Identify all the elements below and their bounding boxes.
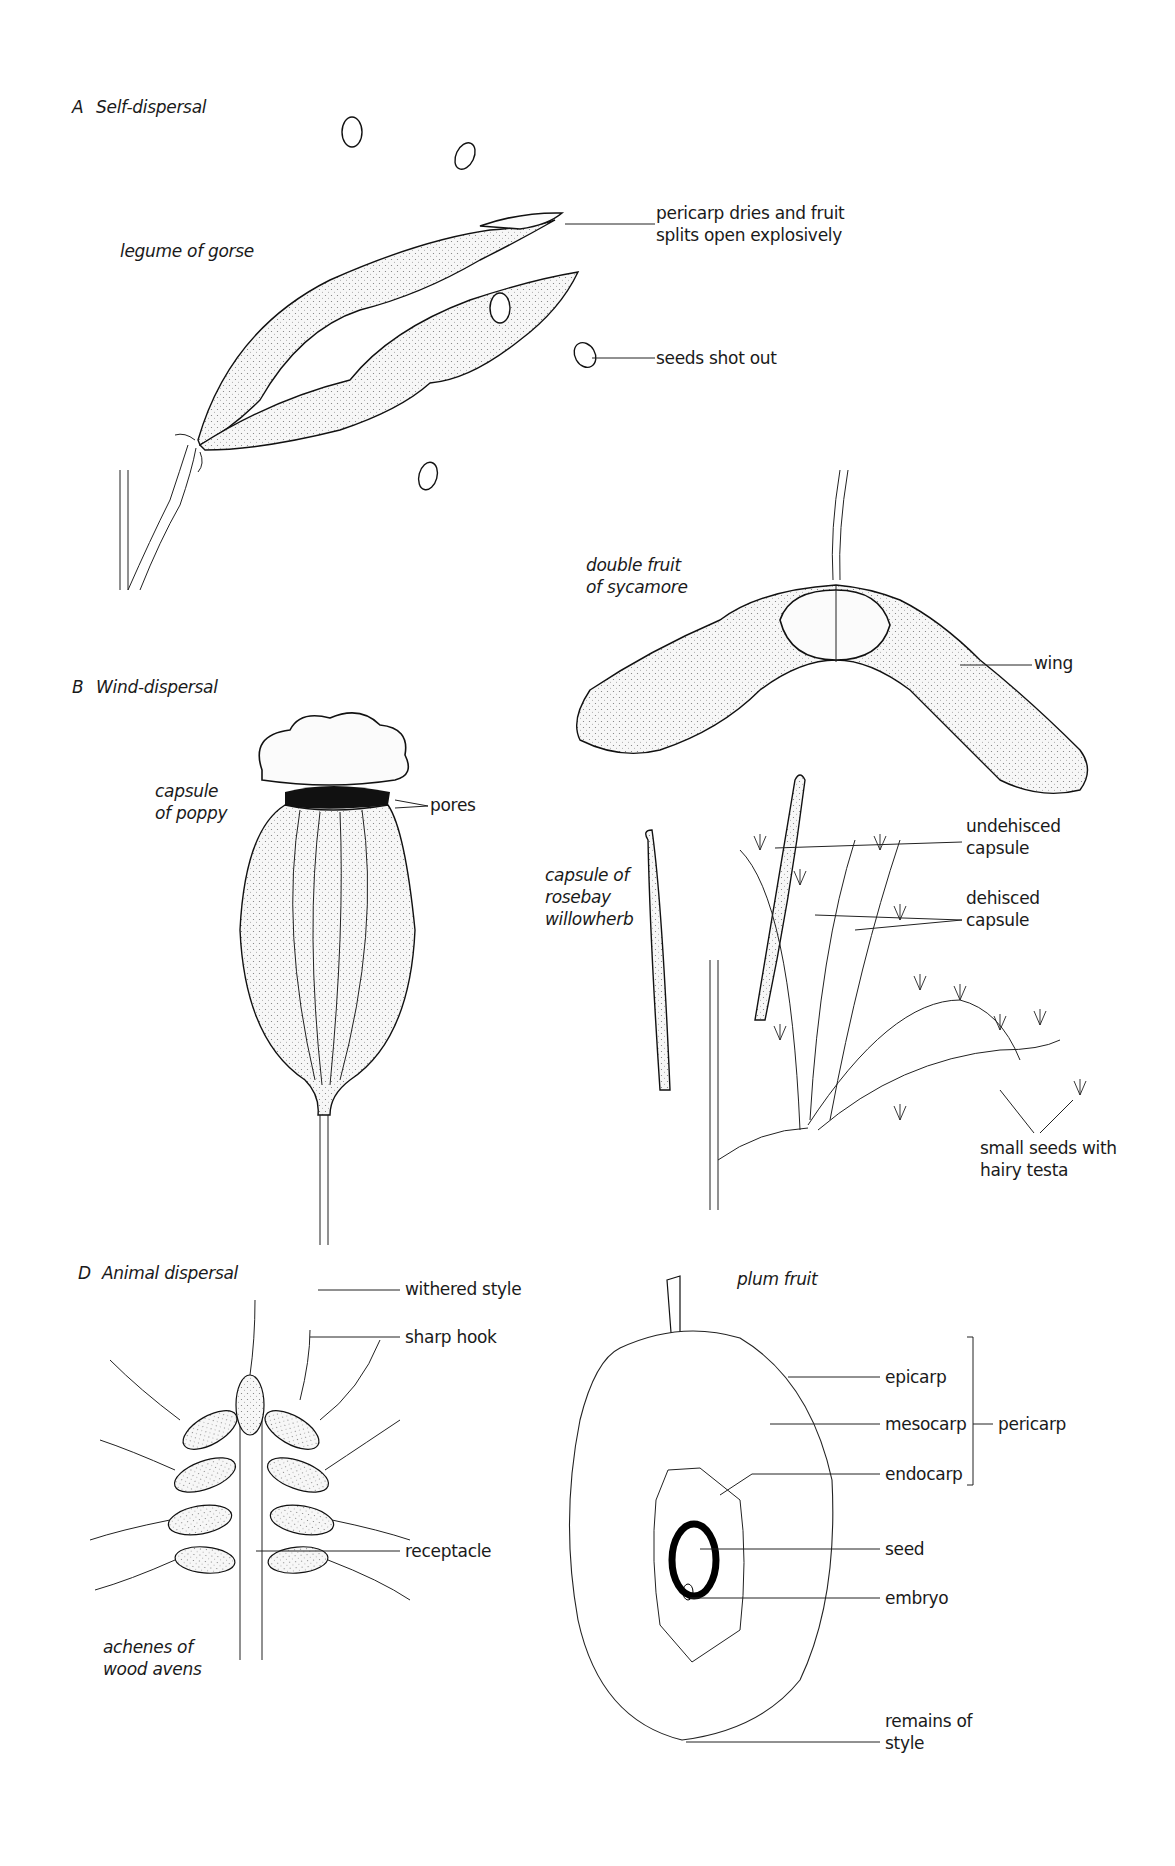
sycamore-fruit-drawing: [577, 470, 1088, 793]
label-endocarp: endocarp: [885, 1463, 963, 1485]
specimen-name: capsule of rosebay willowherb: [545, 864, 633, 930]
label-withered-style: withered style: [405, 1278, 521, 1300]
specimen-name: legume of gorse: [120, 240, 254, 262]
section-title: Wind-dispersal: [96, 677, 218, 697]
section-d-heading: DAnimal dispersal: [78, 1262, 238, 1284]
specimen-name: achenes of wood avens: [103, 1636, 201, 1680]
section-a-heading: ASelf-dispersal: [72, 96, 206, 118]
label-wing: wing: [1034, 652, 1073, 674]
section-b-heading: BWind-dispersal: [72, 676, 218, 698]
label-pericarp-dries: pericarp dries and fruit splits open exp…: [656, 202, 844, 246]
gorse-legume-drawing: [120, 213, 578, 590]
leader-small-seeds: [1000, 1090, 1073, 1133]
label-sharp-hook: sharp hook: [405, 1326, 497, 1348]
label-dehisced-capsule: dehisced capsule: [966, 887, 1040, 931]
label-pericarp: pericarp: [998, 1413, 1066, 1435]
label-mesocarp: mesocarp: [885, 1413, 966, 1435]
section-letter: A: [72, 96, 96, 118]
hairy-seeds: [754, 834, 1086, 1120]
section-title: Self-dispersal: [96, 97, 206, 117]
section-letter: D: [78, 1262, 102, 1284]
label-epicarp: epicarp: [885, 1366, 946, 1388]
label-undehisced-capsule: undehisced capsule: [966, 815, 1061, 859]
label-receptacle: receptacle: [405, 1540, 491, 1562]
plum-fruit-drawing: [569, 1276, 832, 1740]
wood-avens-drawing: [90, 1300, 410, 1660]
label-remains-of-style: remains of style: [885, 1710, 972, 1754]
label-pores: pores: [430, 794, 476, 816]
label-seeds-shot-out: seeds shot out: [656, 347, 777, 369]
section-letter: B: [72, 676, 96, 698]
specimen-name: capsule of poppy: [155, 780, 227, 824]
specimen-name: double fruit of sycamore: [586, 554, 688, 598]
section-title: Animal dispersal: [102, 1263, 238, 1283]
leader-undehisced: [775, 842, 962, 848]
leader-dehisced: [815, 915, 962, 930]
poppy-capsule-drawing: [240, 713, 415, 1245]
label-seed: seed: [885, 1538, 924, 1560]
illustration-canvas: [0, 0, 1175, 1866]
label-embryo: embryo: [885, 1587, 948, 1609]
leader-pores: [395, 800, 428, 808]
label-small-seeds: small seeds with hairy testa: [980, 1137, 1117, 1181]
specimen-name: plum fruit: [737, 1268, 817, 1290]
